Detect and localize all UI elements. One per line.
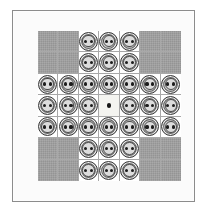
peg-button-icon[interactable]: [38, 117, 57, 136]
peg-button-icon[interactable]: [120, 161, 139, 180]
peg-button-icon[interactable]: [59, 75, 78, 94]
peg-button-icon[interactable]: [99, 161, 118, 180]
peg-holes: [39, 104, 56, 107]
board-cell-peg[interactable]: [79, 95, 99, 116]
board-cell-peg[interactable]: [161, 74, 181, 95]
peg-hole-dot-icon: [84, 125, 87, 128]
board-cell-blocked: [38, 138, 58, 159]
peg-button-icon[interactable]: [79, 161, 98, 180]
peg-holes: [100, 61, 117, 64]
board-cell-peg[interactable]: [120, 95, 140, 116]
board-cell-blocked: [58, 52, 78, 73]
peg-button-icon[interactable]: [120, 139, 139, 158]
board-cell-blocked: [161, 160, 181, 181]
peg-button-icon[interactable]: [59, 96, 78, 115]
peg-holes: [80, 104, 97, 107]
board-cell-peg[interactable]: [79, 52, 99, 73]
board-cell-peg[interactable]: [99, 117, 119, 138]
peg-button-icon[interactable]: [140, 117, 159, 136]
peg-holes: [60, 125, 77, 128]
board-cell-peg[interactable]: [58, 95, 78, 116]
peg-hole-dot-icon: [125, 104, 128, 107]
board-cell-peg[interactable]: [99, 74, 119, 95]
board-cell-peg[interactable]: [99, 138, 119, 159]
board-cell-peg[interactable]: [38, 117, 58, 138]
peg-button-icon[interactable]: [161, 117, 180, 136]
peg-button-icon[interactable]: [140, 75, 159, 94]
board-cell-peg[interactable]: [58, 74, 78, 95]
board-cell-peg[interactable]: [120, 52, 140, 73]
board-cell-peg[interactable]: [99, 52, 119, 73]
peg-button-icon[interactable]: [120, 32, 139, 51]
board-cell-peg[interactable]: [79, 74, 99, 95]
board-cell-peg[interactable]: [120, 138, 140, 159]
board-cell-empty-hole[interactable]: [99, 95, 119, 116]
peg-holes: [141, 82, 158, 85]
board-cell-peg[interactable]: [120, 31, 140, 52]
peg-hole-dot-icon: [64, 125, 67, 128]
board-cell-peg[interactable]: [79, 31, 99, 52]
board-cell-peg[interactable]: [140, 117, 160, 138]
peg-hole-dot-icon: [110, 82, 113, 85]
board-cell-blocked: [58, 31, 78, 52]
peg-holes: [80, 40, 97, 43]
peg-hole-dot-icon: [125, 169, 128, 172]
peg-button-icon[interactable]: [38, 75, 57, 94]
peg-hole-dot-icon: [166, 125, 169, 128]
peg-holes: [80, 125, 97, 128]
peg-button-icon[interactable]: [99, 139, 118, 158]
board-cell-peg[interactable]: [161, 117, 181, 138]
peg-button-icon[interactable]: [99, 32, 118, 51]
board-cell-peg[interactable]: [120, 74, 140, 95]
peg-button-icon[interactable]: [120, 96, 139, 115]
board-cell-blocked: [140, 138, 160, 159]
peg-holes: [141, 125, 158, 128]
peg-hole-dot-icon: [131, 82, 134, 85]
peg-board-grid[interactable]: [38, 31, 181, 181]
board-cell-blocked: [38, 160, 58, 181]
board-cell-peg[interactable]: [38, 74, 58, 95]
peg-button-icon[interactable]: [120, 53, 139, 72]
peg-hole-dot-icon: [105, 125, 108, 128]
board-cell-blocked: [58, 138, 78, 159]
board-cell-peg[interactable]: [79, 160, 99, 181]
board-cell-peg[interactable]: [120, 160, 140, 181]
board-cell-peg[interactable]: [99, 31, 119, 52]
board-cell-peg[interactable]: [140, 95, 160, 116]
peg-button-icon[interactable]: [59, 117, 78, 136]
peg-hole-dot-icon: [125, 40, 128, 43]
board-cell-peg[interactable]: [79, 138, 99, 159]
peg-hole-dot-icon: [131, 104, 134, 107]
peg-button-icon[interactable]: [99, 75, 118, 94]
peg-button-icon[interactable]: [99, 53, 118, 72]
peg-button-icon[interactable]: [79, 53, 98, 72]
peg-button-icon[interactable]: [79, 32, 98, 51]
peg-hole-dot-icon: [151, 82, 154, 85]
peg-hole-dot-icon: [84, 61, 87, 64]
peg-button-icon[interactable]: [120, 117, 139, 136]
board-cell-peg[interactable]: [79, 117, 99, 138]
board-cell-blocked: [161, 138, 181, 159]
peg-hole-dot-icon: [110, 40, 113, 43]
board-cell-peg[interactable]: [140, 74, 160, 95]
peg-button-icon[interactable]: [79, 96, 98, 115]
board-cell-peg[interactable]: [58, 117, 78, 138]
peg-hole-dot-icon: [110, 125, 113, 128]
peg-button-icon[interactable]: [161, 96, 180, 115]
peg-button-icon[interactable]: [99, 117, 118, 136]
peg-button-icon[interactable]: [79, 117, 98, 136]
peg-hole-dot-icon: [131, 40, 134, 43]
peg-button-icon[interactable]: [140, 96, 159, 115]
peg-hole-dot-icon: [105, 169, 108, 172]
peg-button-icon[interactable]: [38, 96, 57, 115]
peg-button-icon[interactable]: [120, 75, 139, 94]
board-cell-peg[interactable]: [161, 95, 181, 116]
peg-hole-dot-icon: [172, 82, 175, 85]
board-cell-peg[interactable]: [99, 160, 119, 181]
board-cell-peg[interactable]: [120, 117, 140, 138]
peg-button-icon[interactable]: [79, 139, 98, 158]
peg-button-icon[interactable]: [79, 75, 98, 94]
board-cell-peg[interactable]: [38, 95, 58, 116]
peg-button-icon[interactable]: [161, 75, 180, 94]
peg-hole-dot-icon: [151, 125, 154, 128]
